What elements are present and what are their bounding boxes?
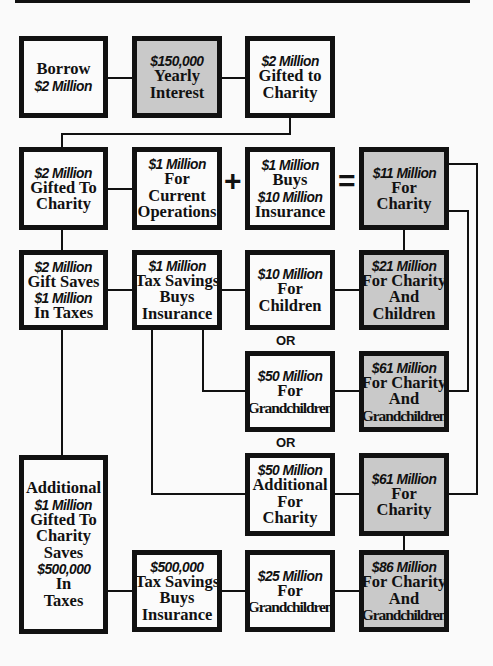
box-61m-charity-grandchildren: $61 MillionFor CharityAndGrandchildren bbox=[359, 351, 449, 432]
or-label-1: OR bbox=[276, 333, 296, 348]
box-buys-insurance: $1 MillionBuys$10 MillionInsurance bbox=[245, 147, 335, 230]
amount-text: $21 Million bbox=[372, 258, 436, 273]
or-label-2: OR bbox=[276, 435, 296, 450]
box-current-operations: $1 MillionForCurrentOperations bbox=[132, 147, 222, 230]
box-yearly-interest: $150,000YearlyInterest bbox=[132, 36, 222, 118]
amount-text: $10 Million bbox=[258, 266, 322, 281]
label-text: Additional bbox=[26, 480, 101, 497]
amount-text: $25 Million bbox=[258, 568, 322, 583]
label-text: Operations bbox=[138, 204, 217, 221]
label-text: Grandchildren bbox=[248, 400, 332, 416]
label-text: Grandchildren bbox=[362, 408, 446, 424]
label-text: Borrow bbox=[37, 61, 91, 78]
label-text: Grandchildren bbox=[248, 599, 332, 615]
label-text: And bbox=[389, 391, 419, 408]
amount-text: $1 Million bbox=[261, 157, 318, 172]
amount-text: $11 Million bbox=[372, 165, 435, 180]
box-borrow: Borrow$2 Million bbox=[19, 36, 108, 118]
box-500k-tax-savings: $500,000Tax SavingsBuysInsurance bbox=[132, 550, 222, 632]
amount-text: $2 Million bbox=[35, 78, 92, 93]
amount-text: $50 Million bbox=[258, 462, 322, 477]
amount-text: $86 Million bbox=[372, 559, 436, 574]
label-text: Charity bbox=[36, 196, 91, 213]
label-text: Insurance bbox=[142, 306, 213, 323]
amount-text: $1 Million bbox=[148, 156, 205, 171]
label-text: For bbox=[277, 583, 303, 600]
amount-text: $500,000 bbox=[37, 561, 90, 576]
label-text: Insurance bbox=[255, 204, 326, 221]
top-rule bbox=[15, 0, 470, 3]
plus-operator: + bbox=[224, 164, 242, 198]
label-text: Charity bbox=[377, 196, 432, 213]
label-text: Charity bbox=[377, 502, 432, 519]
amount-text: $1 Million bbox=[35, 497, 92, 512]
label-text: Children bbox=[373, 306, 436, 323]
box-additional-gift: Additional$1 MillionGifted ToCharitySave… bbox=[19, 455, 108, 634]
label-text: Grandchildren bbox=[362, 607, 446, 623]
label-text: Gift Saves bbox=[28, 274, 100, 291]
box-gift-saves-taxes: $2 MillionGift Saves$1 MillionIn Taxes bbox=[19, 250, 108, 330]
amount-text: $2 Million bbox=[35, 259, 92, 274]
label-text: Charity bbox=[263, 85, 318, 102]
label-text: Children bbox=[259, 298, 322, 315]
box-gifted-to-charity-2: $2 MillionGifted ToCharity bbox=[19, 147, 108, 230]
box-tax-savings-buys-insurance: $1 MillionTax SavingsBuysInsurance bbox=[132, 250, 222, 330]
amount-text: $1 Million bbox=[148, 258, 205, 273]
label-text: For bbox=[277, 383, 303, 400]
box-11m-for-charity: $11 MillionForCharity bbox=[359, 147, 449, 230]
label-text: Taxes bbox=[44, 593, 84, 610]
label-text: Insurance bbox=[142, 607, 213, 624]
amount-text: $10 Million bbox=[258, 189, 322, 204]
amount-text: $150,000 bbox=[150, 53, 203, 68]
amount-text: $2 Million bbox=[261, 53, 318, 68]
amount-text: $61 Million bbox=[372, 360, 436, 375]
amount-text: $50 Million bbox=[258, 368, 322, 383]
box-25m-for-grandchildren: $25 MillionForGrandchildren bbox=[245, 550, 335, 632]
amount-text: $1 Million bbox=[35, 290, 92, 305]
box-50m-additional-charity: $50 MillionAdditionalForCharity bbox=[245, 453, 335, 536]
amount-text: $2 Million bbox=[35, 165, 92, 180]
box-gifted-to-charity: $2 MillionGifted toCharity bbox=[245, 36, 335, 118]
box-86m-charity-grandchildren: $86 MillionFor CharityAndGrandchildren bbox=[359, 550, 449, 632]
label-text: Interest bbox=[150, 85, 205, 102]
box-21m-charity-children: $21 MillionFor CharityAndChildren bbox=[359, 250, 449, 330]
amount-text: $500,000 bbox=[150, 559, 203, 574]
label-text: Buys bbox=[273, 172, 308, 189]
equals-operator: = bbox=[338, 164, 356, 198]
box-10m-for-children: $10 MillionForChildren bbox=[245, 250, 335, 330]
label-text: And bbox=[389, 591, 419, 608]
label-text: In Taxes bbox=[34, 305, 93, 322]
box-61m-for-charity: $61 MillionForCharity bbox=[359, 453, 449, 536]
label-text: Charity bbox=[263, 510, 318, 527]
box-50m-for-grandchildren: $50 MillionForGrandchildren bbox=[245, 351, 335, 432]
label-text: Saves bbox=[44, 545, 83, 562]
amount-text: $61 Million bbox=[372, 471, 436, 486]
